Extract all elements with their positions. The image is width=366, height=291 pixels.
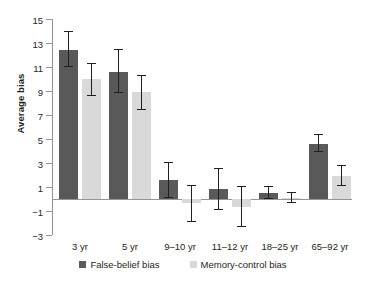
y-tick-mark: 7 <box>46 115 52 116</box>
y-tick-mark: 9 <box>46 91 52 92</box>
y-tick-mark: −1 <box>46 211 52 212</box>
y-tick-mark: 15 <box>46 19 52 20</box>
bar-group <box>305 19 355 235</box>
legend-item-memory-control-bias: Memory-control bias <box>190 259 287 270</box>
error-bar-cap <box>237 226 246 227</box>
bar <box>82 79 101 199</box>
bar-group <box>205 19 255 235</box>
y-axis-title: Average bias <box>15 44 26 164</box>
error-bar-cap <box>64 66 73 67</box>
light-swatch-icon <box>190 261 197 268</box>
error-bar-cap <box>164 197 173 198</box>
y-tick-label: 11 <box>33 62 43 73</box>
legend-item-false-belief-bias: False-belief bias <box>79 259 159 270</box>
error-bar <box>118 49 119 93</box>
error-bar-cap <box>64 31 73 32</box>
y-tick-label: 5 <box>38 134 43 145</box>
error-bar-cap <box>187 185 196 186</box>
x-category-label: 65–92 yr <box>299 241 361 252</box>
error-bar <box>318 134 319 152</box>
y-tick-label: 3 <box>38 158 43 169</box>
y-axis-line <box>52 19 53 235</box>
error-bar-cap <box>287 192 296 193</box>
error-bar <box>68 31 69 67</box>
error-bar-cap <box>137 109 146 110</box>
y-tick-label: −3 <box>32 230 43 241</box>
plot-area: 15131197531−1−3 3 yr5 yr9–10 yr11–12 yr1… <box>52 19 352 235</box>
error-bar-cap <box>314 134 323 135</box>
error-bar-cap <box>237 186 246 187</box>
error-bar <box>168 162 169 198</box>
error-bar-cap <box>137 75 146 76</box>
error-bar-cap <box>337 165 346 166</box>
error-bar <box>268 186 269 199</box>
y-tick-mark: 1 <box>46 187 52 188</box>
bar-chart: Average bias 15131197531−1−3 3 yr5 yr9–1… <box>0 0 366 291</box>
bar <box>59 50 78 199</box>
error-bar <box>141 75 142 110</box>
y-tick-mark: 13 <box>46 43 52 44</box>
error-bar-cap <box>264 186 273 187</box>
error-bar-cap <box>87 63 96 64</box>
legend-label-false-belief-bias: False-belief bias <box>90 259 159 270</box>
error-bar-cap <box>264 198 273 199</box>
error-bar <box>341 165 342 185</box>
error-bar-cap <box>214 168 223 169</box>
bar-group <box>155 19 205 235</box>
bar-group <box>255 19 305 235</box>
y-tick-label: 1 <box>38 182 43 193</box>
error-bar-cap <box>87 95 96 96</box>
error-bar <box>291 192 292 203</box>
error-bar-cap <box>337 185 346 186</box>
y-tick-label: 9 <box>38 86 43 97</box>
error-bar-cap <box>164 162 173 163</box>
error-bar-cap <box>187 221 196 222</box>
error-bar-cap <box>214 209 223 210</box>
error-bar-cap <box>114 92 123 93</box>
y-tick-mark: 11 <box>46 67 52 68</box>
error-bar-cap <box>314 151 323 152</box>
y-tick-label: 15 <box>32 14 43 25</box>
y-tick-label: 7 <box>38 110 43 121</box>
error-bar-cap <box>287 202 296 203</box>
error-bar <box>218 168 219 210</box>
legend-label-memory-control-bias: Memory-control bias <box>201 259 287 270</box>
error-bar <box>91 63 92 95</box>
y-tick-label: −1 <box>32 206 43 217</box>
y-tick-mark: −3 <box>46 235 52 236</box>
dark-swatch-icon <box>79 261 86 268</box>
chart-legend: False-belief bias Memory-control bias <box>0 259 366 270</box>
y-tick-mark: 5 <box>46 139 52 140</box>
bar-group <box>55 19 105 235</box>
error-bar <box>241 186 242 227</box>
error-bar-cap <box>114 49 123 50</box>
y-tick-mark: 3 <box>46 163 52 164</box>
error-bar <box>191 185 192 222</box>
y-tick-label: 13 <box>32 38 43 49</box>
bar-group <box>105 19 155 235</box>
